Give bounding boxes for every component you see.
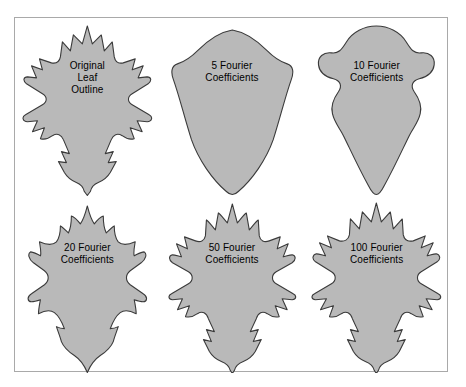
panel-grid: Original Leaf Outline 5 Fourier Coeffici… [15,18,449,373]
panel-10-fourier-coefficients: 10 Fourier Coefficients [304,18,449,196]
panel-50-fourier-coefficients: 50 Fourier Coefficients [160,196,305,374]
panel-5-fourier-coefficients: 5 Fourier Coefficients [160,18,305,196]
leaf-shape-20-coefficients [15,196,160,374]
panel-20-fourier-coefficients: 20 Fourier Coefficients [15,196,160,374]
leaf-shape-10-coefficients [304,18,449,196]
leaf-shape-5-coefficients [160,18,305,196]
panel-100-fourier-coefficients: 100 Fourier Coefficients [304,196,449,374]
figure-frame-border: Original Leaf Outline 5 Fourier Coeffici… [14,17,448,372]
leaf-shape-50-coefficients [160,196,305,374]
panel-original-leaf-outline: Original Leaf Outline [15,18,160,196]
figure-root: Original Leaf Outline 5 Fourier Coeffici… [0,0,466,387]
leaf-shape-original [15,18,160,196]
leaf-shape-100-coefficients [304,196,449,374]
